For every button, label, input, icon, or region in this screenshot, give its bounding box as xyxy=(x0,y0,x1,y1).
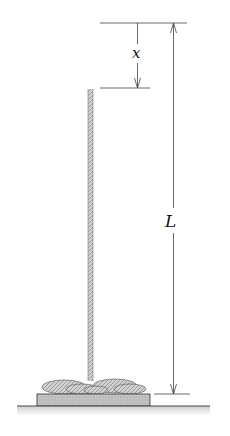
ground-shading xyxy=(17,406,210,416)
L-label: L xyxy=(164,211,176,231)
x-label: x xyxy=(132,44,141,62)
base-plate xyxy=(37,394,150,406)
coiled-rope-pile xyxy=(42,379,146,394)
L-dimension-arrow xyxy=(171,23,177,394)
vertical-rope xyxy=(88,89,93,381)
rope-diagram: x L xyxy=(0,0,230,436)
